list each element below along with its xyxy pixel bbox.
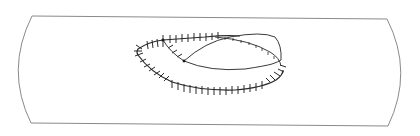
knot-inner: [183, 60, 186, 63]
fine-suture-line: [215, 37, 281, 66]
tube-outline: [18, 16, 401, 126]
knot-top: [161, 38, 164, 41]
illustration-canvas: [0, 0, 420, 136]
suture-diagram: [0, 0, 420, 136]
